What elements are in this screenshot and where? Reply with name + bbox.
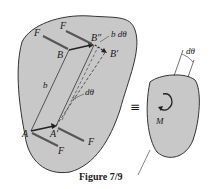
label-b-dtheta: b dθ xyxy=(111,29,127,39)
label-B: B xyxy=(57,49,63,60)
figure-caption: Figure 7/9 xyxy=(79,171,122,182)
left-rigid-body xyxy=(18,16,137,173)
label-F-top: F xyxy=(59,20,67,31)
right-rigid-body xyxy=(147,75,199,157)
equivalence-symbol: ≡ xyxy=(130,100,140,114)
figure-canvas: F F B B″ b dθ B′ b dθ A A′ F F ≡ dθ M Fi… xyxy=(0,0,212,189)
right-body-tail-line xyxy=(138,150,150,175)
label-M: M xyxy=(155,116,164,126)
label-F-left: F xyxy=(33,27,41,38)
dtheta-ext-line-2 xyxy=(188,60,194,77)
dtheta-ext-line-1 xyxy=(174,50,183,76)
label-B-double-prime: B″ xyxy=(91,32,102,43)
label-b: b xyxy=(43,80,48,90)
label-dtheta-right: dθ xyxy=(186,46,196,56)
label-A: A xyxy=(21,128,29,139)
label-F-bottom-right: F xyxy=(87,136,95,147)
label-dtheta-left: dθ xyxy=(85,87,95,97)
label-B-prime: B′ xyxy=(110,48,119,59)
label-A-prime: A′ xyxy=(49,128,59,139)
label-F-bottom-left: F xyxy=(57,145,65,156)
